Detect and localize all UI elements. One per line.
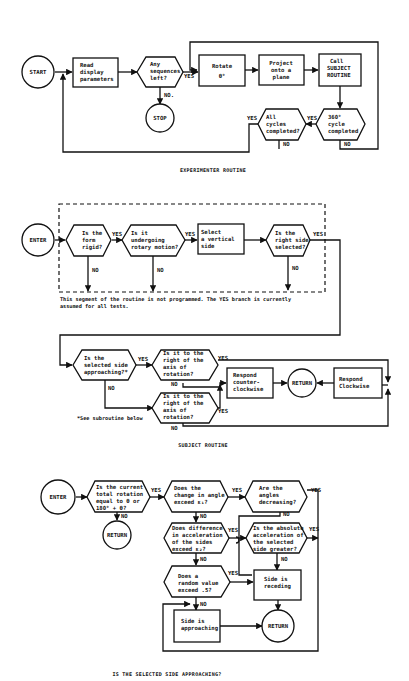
yes-label: YES	[151, 487, 162, 493]
no-label: NO	[200, 601, 207, 607]
project-label-2: onto a	[271, 67, 292, 73]
no-label: NO	[108, 385, 115, 391]
segment-note-2: assumed for all tests.	[60, 303, 129, 309]
approaching-subroutine: ENTER Is the current total rotation equa…	[41, 480, 322, 677]
axis1-label-3: axis of	[163, 364, 187, 370]
random-label-1: Does a	[178, 573, 199, 579]
cw-label-2: Clockwise	[339, 383, 370, 389]
cycle-label-2: cycle	[328, 121, 345, 128]
connector	[218, 385, 220, 408]
yes-label: YES	[218, 408, 229, 414]
rotary-label-3: rotary motion?	[131, 244, 178, 251]
all-label-3: completed?	[266, 128, 300, 135]
yes-label: YES	[185, 231, 196, 237]
yes-label: YES	[247, 115, 258, 121]
decreasing-label-2: angles	[259, 492, 279, 499]
no-label: NO	[171, 381, 178, 387]
yes-label: YES	[112, 231, 123, 237]
ccw-label-2: counter-	[233, 379, 260, 385]
yes-label: YES	[309, 526, 320, 532]
yes-label: YES	[232, 487, 243, 493]
abs-label-3: the selected	[253, 539, 293, 545]
angle-label-2: change in angle	[174, 492, 225, 499]
no-label: NO	[121, 513, 128, 519]
return-label-1: RETURN	[107, 532, 128, 538]
no-label: NO.	[164, 92, 174, 98]
axis2-label-1: Is it to the	[163, 393, 204, 399]
yes-label: YES	[228, 527, 239, 533]
enter-label: ENTER	[50, 494, 67, 500]
select-label-2: a vertical	[201, 236, 235, 242]
no-label: NO	[281, 556, 288, 562]
project-label-3: plane	[273, 74, 290, 81]
no-label: NO	[92, 267, 99, 273]
rotate-box	[199, 55, 245, 86]
approaching-label-2: approaching	[181, 625, 218, 632]
axis1-label-1: Is it to the	[163, 350, 204, 356]
random-label-3: exceed .5?	[178, 587, 212, 593]
return-label: RETURN	[292, 380, 313, 386]
axis2-label-2: right of the	[163, 400, 204, 407]
approaching-label-1: Is the	[84, 355, 105, 361]
no-label: NO	[292, 265, 299, 271]
angle-label-3: exceed ε₁?	[174, 499, 208, 505]
project-label-1: Project	[269, 60, 293, 67]
subject-routine: ENTER Is the form rigid? YES Is it under…	[22, 204, 388, 448]
no-label: NO	[283, 141, 290, 147]
abs-label-2: acceleration of	[253, 532, 304, 538]
select-label-1: Select	[201, 229, 221, 235]
call-label-3: ROUTINE	[327, 72, 351, 78]
yes-label: YES	[228, 570, 239, 576]
any-seq-label-2: sequences	[150, 68, 180, 75]
call-label-1: Call	[330, 58, 343, 64]
diff-label-3: of the sides	[172, 539, 212, 545]
all-label-1: All	[266, 114, 276, 120]
yes-label: YES	[307, 115, 318, 121]
right-side-label-1: Is the	[275, 230, 296, 236]
diff-label-2: in acceleration	[172, 532, 223, 538]
approaching-label-3: approaching?*	[84, 369, 128, 376]
read-label-3: parameters	[80, 76, 114, 83]
yes-label: YES	[313, 231, 324, 237]
no-label: NO	[200, 556, 207, 562]
abs-label-1: Is the absolute	[253, 525, 304, 531]
any-seq-label-1: Any	[150, 61, 161, 68]
enter-label: ENTER	[30, 237, 47, 243]
approaching-label-2: selected side	[84, 362, 128, 368]
return-label-2: RETURN	[268, 623, 289, 629]
total-rot-label-3: equal to θ or	[96, 498, 140, 505]
rotate-label-1: Rotate	[212, 63, 233, 69]
rotary-label-1: Is it	[131, 230, 148, 236]
random-label-2: random value	[178, 580, 219, 586]
total-rot-label-1: Is the current	[96, 484, 143, 490]
rigid-label-1: Is the	[82, 230, 103, 236]
yes-label: YES	[218, 355, 229, 361]
no-label: NO	[200, 513, 207, 519]
ccw-label-3: clockwise	[233, 386, 264, 392]
subject-caption: SUBJECT ROUTINE	[178, 442, 228, 448]
diff-label-4: exceed ε₂?	[172, 546, 206, 552]
receding-label-2: receding	[264, 583, 291, 590]
no-label: NO	[344, 141, 351, 147]
axis2-label-3: axis of	[163, 407, 187, 413]
axis1-label-2: right of the	[163, 357, 204, 364]
experimenter-caption: EXPERIMENTER ROUTINE	[180, 167, 246, 173]
diff-label-1: Does difference	[172, 525, 223, 531]
all-label-2: cycles	[266, 121, 286, 128]
axis1-label-4: rotation?	[163, 371, 193, 377]
cw-label-1: Respond	[339, 376, 363, 383]
start-label: START	[30, 69, 47, 75]
rigid-label-2: form	[82, 237, 96, 243]
decreasing-label-1: Are the	[259, 485, 283, 491]
stop-label: STOP	[153, 115, 167, 121]
approach-caption: IS THE SELECTED SIDE APPROACHING?	[112, 671, 221, 677]
receding-label-1: Side is	[264, 576, 288, 582]
no-label: NO	[171, 425, 178, 431]
experimenter-routine: START Read display parameters Any sequen…	[22, 42, 378, 173]
abs-label-4: side greater?	[253, 546, 297, 553]
rigid-label-3: rigid?	[82, 244, 102, 251]
cycle-label-3: completed	[328, 128, 358, 135]
approaching-label-1: Side is	[181, 618, 205, 624]
angle-label-1: Does the	[174, 485, 202, 491]
ccw-label-1: Respond	[233, 372, 257, 379]
